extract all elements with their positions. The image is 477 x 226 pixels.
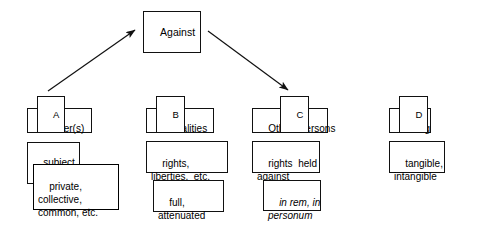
node-against-label: Against [160, 26, 195, 38]
node-modality-degrees[interactable]: full, attenuated [153, 180, 224, 212]
tag-a-label: A [53, 109, 59, 120]
node-modality-kinds-label: rights, liberties, etc. [151, 158, 210, 182]
node-holder-types-label: private, collective, common, etc. [38, 181, 98, 218]
node-against[interactable]: Against [143, 11, 201, 53]
diagram-canvas: Against A Holder(s) subject private, col… [0, 0, 477, 226]
node-in-rem-in-personum[interactable]: in rem, in personum [263, 180, 321, 211]
node-thing-kinds-label: tangible, intangible [394, 158, 443, 182]
node-modality-degrees-label: full, attenuated [158, 197, 205, 221]
node-holder-types[interactable]: private, collective, common, etc. [33, 164, 119, 210]
node-rights-held-against-label: rights held against [257, 158, 317, 182]
tag-c[interactable]: C [280, 96, 309, 133]
node-in-rem-in-personum-label: in rem, in personum [268, 197, 320, 221]
node-rights-held-against[interactable]: rights held against [252, 141, 320, 173]
tag-d[interactable]: D [399, 96, 428, 133]
tag-a[interactable]: A [37, 96, 65, 133]
tag-d-label: D [416, 109, 423, 120]
tag-b-label: B [173, 109, 179, 120]
arrow-a-to-against [48, 30, 135, 91]
node-modality-kinds[interactable]: rights, liberties, etc. [146, 141, 228, 173]
tag-b[interactable]: B [156, 96, 185, 133]
tag-c-label: C [297, 109, 304, 120]
node-thing-kinds[interactable]: tangible, intangible [389, 141, 445, 173]
arrow-against-to-c [208, 31, 288, 90]
